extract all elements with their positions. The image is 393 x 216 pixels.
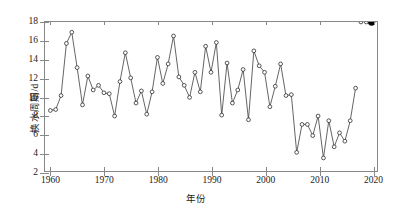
data-point bbox=[70, 30, 74, 34]
data-point bbox=[300, 123, 304, 127]
x-axis-tick-top bbox=[104, 22, 105, 25]
x-axis-tick-inner bbox=[50, 167, 51, 171]
data-point bbox=[236, 88, 240, 92]
data-point bbox=[198, 90, 202, 94]
data-point bbox=[225, 61, 229, 65]
data-point bbox=[354, 86, 358, 90]
data-point bbox=[145, 112, 149, 116]
data-point bbox=[268, 105, 272, 109]
data-point bbox=[332, 145, 336, 149]
x-axis-tick-inner bbox=[158, 167, 159, 171]
data-point bbox=[166, 62, 170, 66]
x-axis-tick-inner bbox=[212, 167, 213, 171]
data-point bbox=[107, 92, 111, 96]
data-point bbox=[284, 94, 288, 98]
data-point bbox=[156, 56, 160, 60]
data-point bbox=[209, 70, 213, 74]
y-axis-tick-label: 8 bbox=[33, 112, 38, 122]
y-axis-tick-inner bbox=[45, 154, 49, 155]
data-point bbox=[220, 113, 224, 117]
x-axis-tick-label: 2020 bbox=[364, 176, 383, 186]
series-line bbox=[50, 32, 355, 158]
data-point bbox=[327, 119, 331, 123]
data-point bbox=[129, 76, 133, 80]
data-point bbox=[161, 82, 165, 86]
x-axis-tick-inner bbox=[266, 167, 267, 171]
x-axis-tick-label: 1970 bbox=[95, 176, 114, 186]
data-point bbox=[348, 119, 352, 123]
data-point bbox=[316, 114, 320, 118]
y-axis-tick-inner bbox=[45, 79, 49, 80]
y-axis-tick-label: 14 bbox=[29, 55, 39, 65]
data-point bbox=[204, 44, 208, 48]
y-axis-tick-label: 4 bbox=[33, 149, 38, 159]
x-axis-tick-top bbox=[158, 22, 159, 25]
data-point bbox=[150, 90, 154, 94]
data-point bbox=[97, 83, 101, 87]
y-axis-tick-inner bbox=[45, 22, 49, 23]
y-axis-tick-inner bbox=[45, 98, 49, 99]
data-point bbox=[322, 156, 326, 160]
x-axis-tick-label: 1990 bbox=[203, 176, 222, 186]
x-axis-tick-inner bbox=[320, 167, 321, 171]
plot-area: 1816141210864219601970198019902000201020… bbox=[44, 21, 378, 172]
data-point bbox=[279, 62, 283, 66]
data-point bbox=[263, 70, 267, 74]
data-point bbox=[177, 75, 181, 79]
y-axis-tick-label: 2 bbox=[33, 168, 38, 178]
data-point bbox=[241, 68, 245, 72]
data-point bbox=[48, 109, 52, 113]
line-series bbox=[45, 22, 377, 171]
data-point bbox=[359, 22, 363, 24]
y-axis-tick-inner bbox=[45, 41, 49, 42]
data-point bbox=[118, 80, 122, 84]
y-axis-tick-label: 18 bbox=[29, 17, 39, 27]
y-axis-tick-inner bbox=[45, 116, 49, 117]
data-point bbox=[54, 108, 58, 112]
data-point bbox=[134, 101, 138, 105]
data-point bbox=[252, 49, 256, 53]
x-axis-tick-label: 2000 bbox=[256, 176, 275, 186]
data-point bbox=[140, 89, 144, 93]
data-point bbox=[257, 64, 261, 68]
data-point bbox=[75, 66, 79, 70]
y-axis-tick-inner bbox=[45, 60, 49, 61]
x-axis-title: 年份 bbox=[0, 191, 393, 205]
y-axis-tick-label: 16 bbox=[29, 36, 39, 46]
data-point bbox=[81, 103, 85, 107]
y-axis-tick-label: 6 bbox=[33, 131, 38, 141]
data-point bbox=[338, 131, 342, 135]
data-point bbox=[295, 151, 299, 155]
data-point bbox=[172, 34, 176, 38]
y-axis-tick-label: 12 bbox=[29, 74, 39, 84]
data-point bbox=[193, 70, 197, 74]
data-point bbox=[231, 101, 235, 105]
x-axis-tick-inner bbox=[374, 167, 375, 171]
x-axis-tick-label: 2010 bbox=[310, 176, 329, 186]
data-point bbox=[86, 74, 90, 78]
data-point bbox=[289, 93, 293, 97]
data-point bbox=[214, 41, 218, 45]
data-point bbox=[247, 118, 251, 122]
data-point bbox=[343, 139, 347, 143]
data-point bbox=[188, 96, 192, 100]
chart-figure: 换水周期/d 181614121086421960197019801990200… bbox=[0, 0, 393, 216]
data-point bbox=[91, 88, 95, 92]
y-axis-tick-inner bbox=[45, 173, 49, 174]
x-axis-tick-top bbox=[374, 22, 375, 25]
data-point bbox=[311, 134, 315, 138]
data-point bbox=[182, 83, 186, 87]
y-axis-tick-label: 10 bbox=[29, 93, 39, 103]
data-point bbox=[59, 94, 63, 98]
data-point bbox=[113, 114, 117, 118]
y-axis-tick-inner bbox=[45, 135, 49, 136]
data-point bbox=[65, 42, 69, 46]
data-point bbox=[306, 123, 310, 127]
x-axis-tick-top bbox=[320, 22, 321, 25]
x-axis-tick-top bbox=[266, 22, 267, 25]
data-point bbox=[273, 84, 277, 88]
data-point bbox=[364, 22, 368, 24]
x-axis-tick-inner bbox=[104, 167, 105, 171]
x-axis-tick-top bbox=[212, 22, 213, 25]
data-point bbox=[123, 51, 127, 55]
